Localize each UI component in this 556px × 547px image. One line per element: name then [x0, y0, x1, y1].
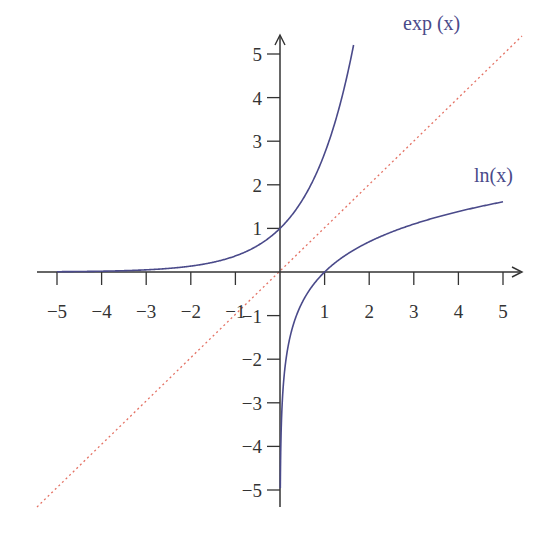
y-tick-label: −2 — [242, 349, 262, 370]
exp-curve-label: exp (x) — [403, 12, 460, 35]
ln-curve-label: ln(x) — [474, 164, 513, 187]
y-tick-label: −1 — [242, 306, 262, 327]
y-tick-label: 5 — [253, 44, 263, 65]
y-tick-label: 4 — [253, 88, 263, 109]
x-tick-label: −3 — [136, 301, 156, 322]
y-tick-label: −4 — [242, 436, 263, 457]
x-tick-label: 3 — [409, 301, 419, 322]
x-tick-label: 5 — [498, 301, 508, 322]
x-tick-label: 1 — [320, 301, 330, 322]
y-tick-label: 3 — [253, 131, 263, 152]
x-tick-label: −4 — [91, 301, 112, 322]
ln-curve — [280, 202, 503, 489]
plot-area: −5−4−3−2−112345−5−4−3−2−112345 exp (x) l… — [0, 0, 556, 547]
exp-curve — [57, 45, 354, 272]
x-tick-label: −2 — [181, 301, 201, 322]
y-tick-label: −5 — [242, 480, 262, 501]
y-tick-label: 2 — [253, 175, 263, 196]
x-tick-label: 4 — [454, 301, 464, 322]
y-tick-label: 1 — [253, 218, 263, 239]
chart: −5−4−3−2−112345−5−4−3−2−112345 exp (x) l… — [0, 0, 556, 547]
y-tick-label: −3 — [242, 393, 262, 414]
x-tick-label: 2 — [364, 301, 374, 322]
x-tick-label: −5 — [47, 301, 67, 322]
